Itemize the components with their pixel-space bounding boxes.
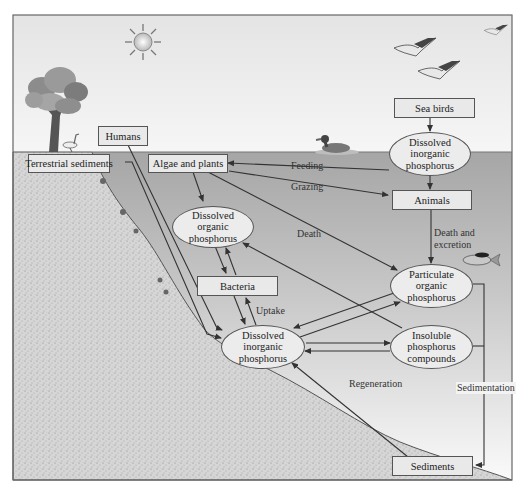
node-humans: Humans [98, 126, 148, 146]
node-label-line: phosphorus [407, 341, 455, 353]
edge-label-grazing: Grazing [291, 181, 323, 193]
node-label-line: Insoluble [407, 330, 455, 342]
node-label-line: organic [189, 221, 237, 233]
node-sea-birds: Sea birds [394, 98, 475, 118]
edge-label-regeneration: Regeneration [349, 378, 402, 390]
node-terrestrial-sediments: Terrestrial sediments [28, 154, 110, 173]
edge-label-sedimentation: Sedimentation [456, 382, 516, 394]
node-bacteria: Bacteria [197, 276, 278, 296]
edge-label-line: Death and [434, 227, 475, 239]
node-dissolved-inorganic-phosphorus-bottom: Dissolvedinorganicphosphorus [221, 325, 305, 369]
edge-label-line: excretion [434, 239, 475, 251]
node-label: Humans [106, 131, 141, 142]
node-label-line: Dissolved [406, 137, 454, 149]
edge-label-death-and-excretion: Death and excretion [434, 227, 475, 250]
node-label: Sea birds [415, 103, 454, 114]
node-label-line: inorganic [239, 341, 287, 353]
node-label-line: Dissolved [189, 210, 237, 222]
node-label: Animals [414, 195, 450, 206]
edge-label-feeding: Feeding [291, 160, 323, 172]
node-label-line: Particulate [407, 269, 455, 281]
node-dissolved-organic-phosphorus: Dissolvedorganicphosphorus [172, 206, 254, 248]
node-label-line: phosphorus [407, 292, 455, 304]
node-label: Bacteria [220, 281, 255, 292]
phosphorus-cycle-diagram: Sea birds Dissolvedinorganicphosphorus H… [0, 0, 524, 489]
sun-icon [125, 24, 161, 60]
node-label-line: phosphorus [406, 160, 454, 172]
node-label-line: organic [407, 280, 455, 292]
node-sediments: Sediments [392, 456, 473, 476]
node-label-line: phosphorus [239, 353, 287, 365]
node-label: Sediments [411, 461, 455, 472]
node-algae-and-plants: Algae and plants [148, 154, 228, 173]
edge-label-death: Death [297, 228, 321, 240]
node-animals: Animals [392, 190, 472, 210]
node-label: Terrestrial sediments [25, 158, 113, 169]
node-label-line: inorganic [406, 148, 454, 160]
node-label-line: compounds [407, 353, 455, 365]
node-insoluble-phosphorus-compounds: Insolublephosphoruscompounds [390, 325, 473, 369]
edge-label-uptake: Uptake [256, 305, 285, 317]
node-label: Algae and plants [153, 158, 224, 169]
node-label-line: phosphorus [189, 233, 237, 245]
node-label-line: Dissolved [239, 330, 287, 342]
node-particulate-organic-phosphorus: Particulateorganicphosphorus [390, 264, 473, 308]
node-dissolved-inorganic-phosphorus-top: Dissolvedinorganicphosphorus [389, 132, 471, 176]
